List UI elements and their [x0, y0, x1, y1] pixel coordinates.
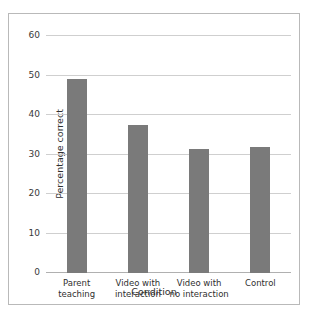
y-tick-label: 50	[29, 70, 40, 79]
bar-series: ParentteachingVideo withinteractionVideo…	[46, 36, 291, 273]
y-tick-label: 0	[34, 268, 40, 277]
y-tick-label: 30	[29, 149, 40, 158]
bar-group: Video withno interaction	[169, 36, 230, 273]
y-tick-label: 40	[29, 110, 40, 119]
y-tick-label: 60	[29, 31, 40, 40]
y-tick-label: 20	[29, 189, 40, 198]
x-axis-title: Condition	[9, 286, 299, 297]
y-tick-label: 10	[29, 228, 40, 237]
plot-area: 0102030405060 ParentteachingVideo within…	[46, 36, 291, 273]
bar	[250, 147, 270, 273]
bar	[67, 79, 87, 273]
bar	[128, 125, 148, 273]
chart-figure: Percentage correct 0102030405060 Parentt…	[8, 13, 300, 305]
bar	[189, 149, 209, 273]
bar-group: Parentteaching	[46, 36, 107, 273]
bar-group: Video withinteraction	[107, 36, 168, 273]
bar-group: Control	[230, 36, 291, 273]
